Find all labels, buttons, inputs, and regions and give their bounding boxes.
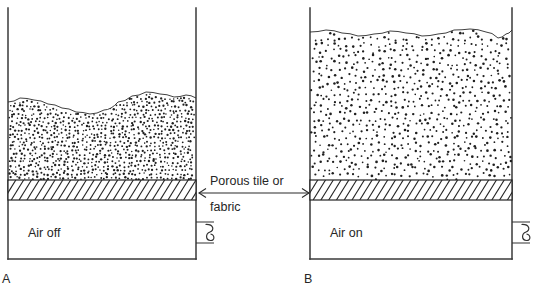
particle (465, 132, 467, 134)
particle (135, 154, 137, 156)
particle (22, 101, 24, 103)
particle (318, 56, 320, 58)
particle (25, 138, 27, 140)
particle (158, 145, 160, 147)
particle (430, 112, 432, 114)
particle (494, 141, 496, 143)
particle (454, 154, 456, 156)
particle (191, 168, 193, 170)
particle (60, 145, 62, 147)
particle (337, 86, 340, 89)
particle (189, 149, 191, 151)
particle (407, 130, 409, 132)
particle (174, 153, 176, 155)
particle (315, 40, 317, 42)
particle (477, 122, 479, 124)
particle (50, 146, 52, 148)
particle (386, 81, 388, 83)
particle (322, 120, 324, 122)
particle (115, 114, 117, 116)
particle (318, 119, 321, 122)
particle (11, 170, 13, 172)
particle (82, 166, 84, 168)
particle (152, 160, 154, 162)
particle (434, 143, 437, 146)
particle (76, 118, 78, 120)
particle (146, 128, 148, 130)
particle (489, 126, 491, 128)
particle (61, 140, 63, 142)
particle (182, 146, 184, 148)
particle (167, 126, 169, 128)
particle (101, 147, 103, 149)
particle (334, 74, 337, 77)
particle (419, 145, 421, 147)
particle (172, 100, 174, 102)
particle (420, 85, 422, 87)
particle (325, 114, 327, 116)
particle (442, 110, 444, 112)
particle (105, 141, 107, 143)
particle (402, 137, 404, 139)
particle (190, 133, 192, 135)
particle (498, 52, 500, 54)
particle (104, 154, 106, 156)
panel-b-state-label: Air on (330, 226, 363, 240)
particle (354, 75, 356, 77)
particle (143, 116, 145, 118)
diagram-canvas: Air off A Air on B (0, 0, 534, 293)
particle (333, 33, 335, 35)
particle (454, 54, 456, 56)
particle (339, 160, 342, 163)
particle (319, 86, 322, 89)
particle (21, 138, 23, 140)
particle (466, 79, 468, 81)
particle (84, 114, 86, 116)
particle (97, 124, 99, 126)
particle (383, 154, 386, 157)
particle (135, 141, 137, 143)
particle (326, 83, 329, 86)
particle (394, 61, 396, 63)
particle (69, 130, 71, 132)
particle (112, 156, 114, 158)
particle (19, 102, 20, 103)
particle (494, 98, 496, 100)
particle (323, 175, 325, 177)
particle (44, 160, 46, 162)
particle (11, 160, 13, 162)
particle (51, 166, 53, 168)
particle (375, 108, 377, 110)
particle (496, 105, 498, 107)
particle (429, 164, 431, 166)
particle (12, 126, 14, 128)
particle (22, 114, 24, 116)
panel-b-distributor-plate (298, 180, 534, 200)
particle (96, 122, 98, 124)
particle (338, 139, 340, 141)
particle (172, 162, 174, 164)
particle (381, 110, 383, 112)
particle (52, 173, 54, 175)
particle (352, 45, 355, 48)
particle (497, 166, 499, 168)
particle (160, 125, 162, 127)
particle (23, 122, 25, 124)
particle (464, 43, 466, 45)
particle (98, 121, 100, 123)
particle (438, 73, 440, 75)
particle (47, 122, 49, 124)
particle (393, 88, 395, 90)
particle (368, 104, 370, 106)
panel-a-distributor-plate (0, 180, 219, 200)
particle (403, 123, 405, 125)
particle (496, 132, 498, 134)
particle (81, 140, 83, 142)
particle (320, 39, 322, 41)
particle (400, 175, 402, 177)
particle (189, 168, 191, 170)
particle (181, 169, 183, 171)
particle (32, 174, 34, 176)
particle (117, 118, 119, 120)
panel-a-particle-bed (8, 92, 196, 181)
